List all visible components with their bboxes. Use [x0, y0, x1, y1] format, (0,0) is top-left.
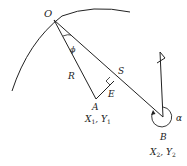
- label-A: A: [91, 102, 99, 112]
- line-OA: [54, 20, 96, 99]
- label-O: O: [44, 8, 52, 19]
- label-E: E: [107, 89, 115, 99]
- right-angle-marker: [106, 77, 110, 85]
- label-A-coords: X1, Y1: [84, 114, 111, 125]
- label-phi: ϕ: [70, 45, 76, 54]
- alpha-arrow-icon: [151, 110, 156, 115]
- north-line: [160, 52, 163, 117]
- label-B: B: [159, 132, 167, 142]
- label-B-coords: X2, Y2: [149, 147, 176, 158]
- geometry-diagram: O ϕ R S E A X1, Y1 α B X2, Y2: [0, 0, 187, 166]
- north-flag-icon: [157, 52, 165, 63]
- phi-angle-arc: [63, 35, 71, 36]
- label-R: R: [67, 71, 75, 81]
- label-alpha: α: [176, 113, 182, 123]
- label-S: S: [118, 66, 124, 76]
